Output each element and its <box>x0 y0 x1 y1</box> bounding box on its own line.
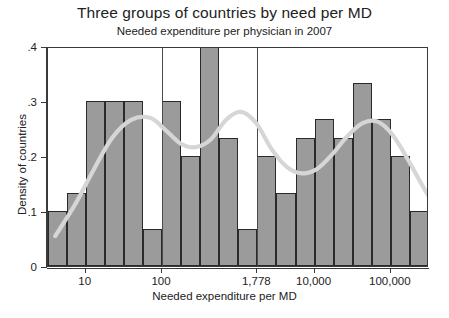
chart-title: Three groups of countries by need per MD <box>0 4 449 22</box>
y-tick-label: .2 <box>0 151 37 163</box>
chart-subtitle: Needed expenditure per physician in 2007 <box>0 25 449 37</box>
y-axis-title: Density of countries <box>16 114 28 215</box>
histogram-figure: Three groups of countries by need per MD… <box>0 0 449 318</box>
x-tick-mark <box>161 268 162 273</box>
y-tick-mark <box>41 267 47 268</box>
x-tick-mark <box>314 268 315 273</box>
plot-inner <box>48 48 427 266</box>
x-tick-label: 1,778 <box>242 275 271 287</box>
x-axis-title: Needed expenditure per MD <box>0 290 449 302</box>
density-curve-path <box>55 112 427 236</box>
density-curve <box>48 48 427 266</box>
x-tick-label: 100,000 <box>369 275 411 287</box>
y-tick-label: .4 <box>0 41 37 53</box>
y-tick-label: 0 <box>0 261 37 273</box>
x-tick-label: 100 <box>151 275 170 287</box>
x-axis-line <box>47 268 429 269</box>
x-tick-label: 10 <box>78 275 91 287</box>
y-tick-label: .1 <box>0 206 37 218</box>
x-tick-mark <box>390 268 391 273</box>
plot-area <box>47 47 428 267</box>
x-tick-mark <box>85 268 86 273</box>
y-tick-label: .3 <box>0 96 37 108</box>
x-tick-mark <box>256 268 257 273</box>
x-tick-label: 10,000 <box>296 275 331 287</box>
